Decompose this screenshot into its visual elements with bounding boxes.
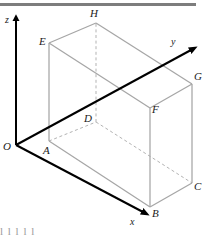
hidden-edges-group xyxy=(49,23,192,183)
axis-label-x: x xyxy=(130,217,134,227)
vertex-label-g: G xyxy=(194,71,202,82)
edge-E-H xyxy=(49,23,96,43)
edge-A-B xyxy=(49,141,150,207)
vertex-label-e: E xyxy=(39,36,46,47)
vertex-label-h: H xyxy=(90,8,98,19)
axis-label-y: y xyxy=(171,37,175,47)
axis-x xyxy=(16,145,143,212)
vertex-label-d: D xyxy=(84,113,92,124)
vertex-label-o: O xyxy=(3,141,11,152)
vertex-label-c: C xyxy=(194,181,201,192)
vertex-label-a: A xyxy=(43,145,50,156)
edge-E-F xyxy=(49,43,150,108)
axis-label-z: z xyxy=(5,15,9,25)
figure-container: zyxOABCDEFGH l l l l l xyxy=(0,0,204,236)
vertex-label-b: B xyxy=(152,208,159,219)
edge-B-C xyxy=(150,183,192,207)
edge-D-C xyxy=(96,122,192,183)
vertex-label-f: F xyxy=(152,104,159,115)
edge-A-D xyxy=(49,122,96,141)
bottom-cropped-text: l l l l l xyxy=(0,227,204,236)
coordinate-axes-group xyxy=(16,20,191,212)
axis-y xyxy=(16,50,191,145)
